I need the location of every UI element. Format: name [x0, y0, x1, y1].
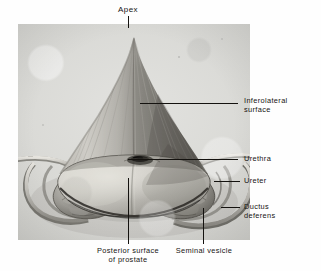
plate-speck: [42, 124, 44, 126]
urethra-leader-line: [128, 159, 238, 160]
label-urethra: Urethra: [244, 154, 314, 163]
specimen-photograph-plate: [18, 24, 250, 240]
label-ureter: Ureter: [244, 176, 314, 185]
label-ductus-deferens: Ductus deferens: [244, 202, 316, 221]
label-posterior-surface-of-prostate: Posterior surface of prostate: [78, 246, 178, 265]
prostate-specimen-drawing: [18, 24, 250, 240]
seminal-vesicle-leader-line: [203, 208, 204, 244]
posterior-surface-leader-line: [128, 178, 129, 244]
plate-speck: [178, 56, 180, 58]
apex-leader-line: [128, 16, 129, 28]
label-apex: Apex: [108, 5, 148, 14]
label-seminal-vesicle: Seminal vesicle: [166, 246, 242, 255]
plate-speck: [28, 156, 33, 157]
inferolateral-leader-line: [140, 103, 238, 104]
plate-speck: [221, 38, 223, 40]
anatomy-figure: Apex Inferolateral surface Urethra Urete…: [0, 0, 321, 271]
ductus-deferens-leader-line: [221, 207, 240, 208]
label-inferolateral-surface: Inferolateral surface: [244, 96, 320, 115]
ureter-leader-line: [214, 181, 240, 182]
